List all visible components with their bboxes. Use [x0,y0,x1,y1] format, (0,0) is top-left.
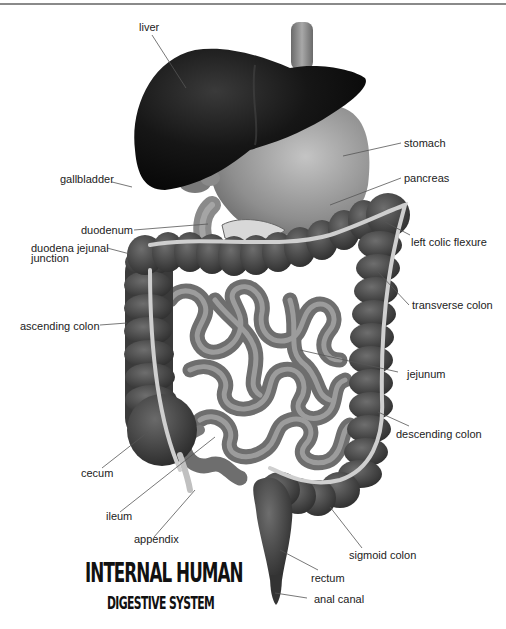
label-duodena-jejunal-junction-line2: junction [31,252,69,264]
digestive-system-illustration [0,0,506,629]
label-jejunum: jejunum [407,368,446,380]
esophagus [291,22,313,70]
title-line2: DIGESTIVE SYSTEM [107,592,214,613]
label-descending-colon: descending colon [396,428,482,440]
label-pancreas: pancreas [404,172,449,184]
label-appendix: appendix [134,533,179,545]
label-liver: liver [139,21,159,33]
label-gallbladder: gallbladder [60,173,114,185]
title-line1: INTERNAL HUMAN [85,557,243,588]
label-rectum: rectum [311,572,345,584]
label-left-colic-flexure: left colic flexure [411,236,487,248]
descending-colon [338,231,402,488]
rectum [253,477,292,580]
label-ileum: ileum [106,510,132,522]
label-anal-canal: anal canal [314,593,364,605]
small-intestine [170,287,350,478]
anal-canal [270,575,282,605]
label-stomach: stomach [404,137,446,149]
label-cecum: cecum [81,467,113,479]
label-transverse-colon: transverse colon [412,299,493,311]
label-sigmoid-colon: sigmoid colon [349,549,416,561]
label-duodenum: duodenum [81,224,133,236]
label-ascending-colon: ascending colon [20,320,100,332]
